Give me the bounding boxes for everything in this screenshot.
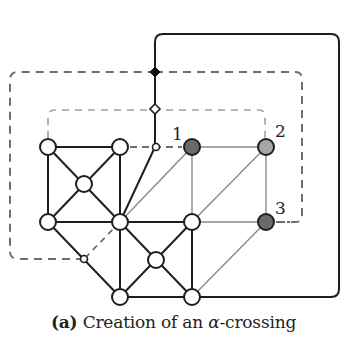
caption-label: (a) — [51, 312, 78, 332]
node — [40, 214, 56, 230]
node — [76, 176, 92, 192]
node-label-3: 3 — [275, 198, 286, 218]
diamond-black-icon — [150, 67, 160, 77]
node-label-2: 2 — [275, 121, 286, 141]
node-3 — [258, 214, 274, 230]
node — [112, 289, 128, 305]
node-1 — [184, 139, 200, 155]
small-node — [153, 144, 160, 151]
node — [184, 214, 200, 230]
node — [112, 214, 128, 230]
node — [184, 289, 200, 305]
small-node — [81, 256, 88, 263]
figure-caption: (a) Creation of an α-crossing — [0, 312, 347, 332]
node — [112, 139, 128, 155]
node — [40, 139, 56, 155]
graph-diagram: 1 2 3 — [0, 0, 347, 346]
node-label-1: 1 — [172, 124, 183, 144]
inner-dashed-cycle — [48, 110, 265, 138]
caption-greek: α — [208, 312, 219, 332]
node — [148, 252, 164, 268]
caption-text-before: Creation of an — [83, 312, 209, 332]
caption-text-after: -crossing — [220, 312, 297, 332]
node-2 — [258, 139, 274, 155]
diamond-white-icon — [150, 104, 160, 114]
